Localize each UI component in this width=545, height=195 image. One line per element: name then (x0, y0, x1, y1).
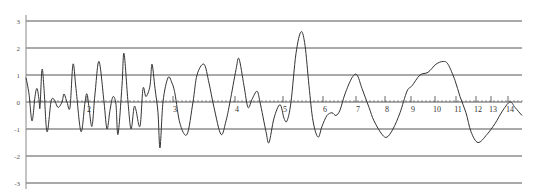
x-tick-label: 6 (323, 105, 327, 114)
x-tick-labels: 234567891011121314 (87, 105, 514, 114)
y-tick-label: 2 (17, 45, 21, 53)
y-tick-label: -3 (14, 180, 20, 188)
x-tick-label: 10 (433, 105, 441, 114)
y-tick-label: -2 (14, 153, 20, 161)
x-tick-label: 9 (411, 105, 415, 114)
waveform-chart: 3210-1-2-3 234567891011121314 (0, 0, 545, 195)
y-tick-label: 3 (17, 18, 21, 26)
x-tick-label: 11 (454, 105, 462, 114)
y-tick-label: -1 (14, 126, 20, 134)
x-tick-label: 4 (235, 105, 239, 114)
x-tick-label: 5 (283, 105, 287, 114)
waveform-line (26, 32, 522, 148)
x-tick-label: 8 (385, 105, 389, 114)
y-tick-label: 0 (17, 99, 21, 107)
x-tick-label: 14 (506, 105, 514, 114)
x-tick-label: 7 (356, 105, 360, 114)
y-tick-label: 1 (17, 72, 21, 80)
x-tick-label: 13 (489, 105, 497, 114)
x-tick-label: 12 (474, 105, 482, 114)
y-tick-labels: 3210-1-2-3 (14, 18, 20, 188)
